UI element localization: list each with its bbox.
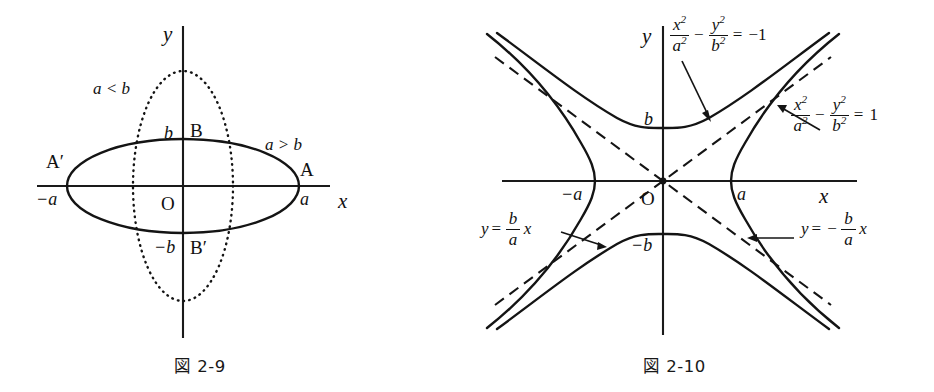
asymptote-label-negative: y = − b a x: [801, 210, 869, 249]
ellipse-diagram-svg: [0, 0, 467, 392]
equals-operator: =: [809, 219, 825, 239]
equation-horizontal-hyperbola: x2 a2 − y2 b2 = 1: [789, 96, 881, 135]
origin-label: O: [161, 194, 175, 213]
fraction-x-over-a: x2 a2: [791, 96, 811, 135]
x-axis-label: x: [338, 191, 347, 212]
figure-panel-ellipse: y x O A′ A B B′ −a a b −b a < b a > b 図 …: [0, 0, 467, 392]
tick-label-a: a: [300, 190, 309, 208]
condition-label-a-less-b: a < b: [93, 80, 130, 97]
pointer-to-vertical-hyperbola: [682, 61, 711, 122]
origin-label: O: [641, 189, 655, 208]
vertex-label-a: A: [300, 160, 314, 179]
hyperbola-diagram-svg: [467, 0, 934, 392]
pointer-to-asymptote-negative: [747, 234, 794, 242]
fraction-x-over-a: x2 a2: [670, 16, 690, 55]
condition-label-a-greater-b: a > b: [265, 136, 302, 153]
equals-operator: =: [730, 25, 746, 45]
asymptote-x: x: [857, 219, 869, 239]
figure-caption-2-10: 図 2-10: [643, 353, 706, 377]
equals-operator: =: [489, 219, 505, 239]
figure-panel-hyperbola: y x O −a a b −b x2 a2 − y2 b2 = −1 x2 a2: [467, 0, 934, 392]
minus-operator: −: [812, 105, 828, 125]
figure-page: y x O A′ A B B′ −a a b −b a < b a > b 図 …: [0, 0, 934, 392]
asymptote-y: y: [481, 219, 489, 239]
asymptote-x: x: [522, 219, 534, 239]
asymptote-label-positive: y = b a x: [481, 210, 533, 249]
minus-operator: −: [691, 25, 707, 45]
y-axis-label: y: [163, 24, 172, 45]
origin-marker: [660, 178, 667, 185]
equation-rhs: −1: [745, 25, 769, 45]
tick-label-neg-b: −b: [154, 238, 175, 256]
tick-label-neg-b: −b: [631, 236, 652, 254]
covertex-label-b-prime: B′: [190, 238, 207, 257]
fraction-b-over-a: b a: [506, 210, 521, 249]
negative-sign: −: [824, 219, 840, 239]
figure-caption-2-9: 図 2-9: [174, 353, 226, 377]
equation-vertical-hyperbola: x2 a2 − y2 b2 = −1: [668, 16, 770, 55]
tick-label-b: b: [164, 124, 173, 142]
tick-label-a: a: [737, 185, 746, 203]
y-axis-label: y: [642, 26, 651, 47]
equation-rhs: 1: [866, 105, 881, 125]
equals-operator: =: [851, 105, 867, 125]
tick-label-b: b: [644, 110, 653, 128]
fraction-y-over-b: y2 b2: [708, 16, 728, 55]
vertex-label-a-prime: A′: [46, 152, 64, 171]
fraction-y-over-b: y2 b2: [829, 96, 849, 135]
covertex-label-b: B: [190, 121, 203, 140]
asymptote-y: y: [801, 219, 809, 239]
tick-label-neg-a: −a: [561, 185, 582, 203]
tick-label-neg-a: −a: [36, 190, 57, 208]
x-axis-label: x: [819, 186, 828, 207]
fraction-b-over-a: b a: [841, 210, 856, 249]
